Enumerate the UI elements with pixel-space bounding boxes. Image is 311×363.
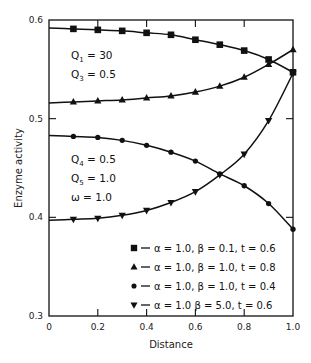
x-tick-label: 0 [46,322,52,332]
square-marker-icon [168,32,175,39]
x-axis-label: Distance [149,339,193,350]
circle-marker-icon [95,135,100,140]
square-marker-icon [95,27,102,34]
y-tick-label: 0.5 [29,114,43,124]
circle-marker-icon [242,183,247,188]
square-marker-icon [241,47,248,54]
triangle-down-marker-icon [130,302,137,308]
annotation-q1: Q1 = 30 [71,49,113,64]
y-axis: 0.30.40.50.6 [29,15,293,321]
square-marker-icon [119,28,126,35]
y-axis-label: Enzyme activity [13,128,24,208]
x-tick-label: 0.2 [91,322,105,332]
circle-marker-icon [120,138,125,143]
legend-item: α = 1.0, β = 1.0, t = 0.4 [131,281,275,292]
square-marker-icon [70,26,77,33]
square-marker-icon [131,245,137,251]
legend-label: α = 1.0, β = 0.1, t = 0.6 [154,243,276,254]
legend-label: α = 1.0, β = 1.0, t = 0.4 [154,281,276,292]
circle-marker-icon [71,134,76,139]
legend-label: α = 1.0, β = 1.0, t = 0.8 [154,262,276,273]
circle-marker-icon [131,283,136,288]
square-marker-icon [143,30,150,37]
square-marker-icon [192,36,199,43]
legend: α = 1.0, β = 0.1, t = 0.6α = 1.0, β = 1.… [130,243,275,311]
square-marker-icon [217,41,224,48]
circle-marker-icon [144,143,149,148]
annotation-q3: Q3 = 0.5 [71,68,116,83]
triangle-up-marker-icon [130,263,137,269]
legend-item: α = 1.0 β = 5.0, t = 0.6 [130,300,272,311]
annotation-q4: Q4 = 0.5 [71,153,116,168]
annotation-omega: ω = 1.0 [71,191,112,203]
x-tick-label: 0.4 [139,322,154,332]
y-tick-label: 0.3 [29,311,43,321]
circle-marker-icon [290,227,295,232]
circle-marker-icon [168,150,173,155]
triangle-up-marker-icon [289,46,296,53]
x-tick-label: 0.8 [237,322,252,332]
y-tick-label: 0.6 [29,15,44,25]
circle-marker-icon [266,201,271,206]
legend-item: α = 1.0, β = 0.1, t = 0.6 [131,243,276,254]
enzyme-activity-chart: 00.20.40.60.81.0 0.30.40.50.6 Q1 = 30Q3 … [0,0,311,363]
annotation-q5: Q5 = 1.0 [71,172,116,187]
y-tick-label: 0.4 [29,212,44,222]
parameter-annotations: Q1 = 30Q3 = 0.5Q4 = 0.5Q5 = 1.0ω = 1.0 [71,49,116,202]
x-tick-label: 1.0 [286,322,301,332]
legend-label: α = 1.0 β = 5.0, t = 0.6 [154,300,272,311]
legend-item: α = 1.0, β = 1.0, t = 0.8 [130,262,275,273]
circle-marker-icon [193,158,198,163]
x-tick-label: 0.6 [188,322,203,332]
